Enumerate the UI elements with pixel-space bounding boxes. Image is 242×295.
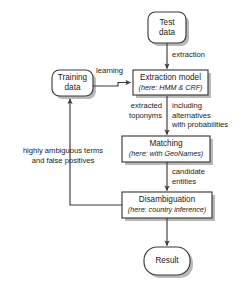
node-training-data-shape (52, 70, 93, 96)
diagram-canvas (0, 0, 242, 295)
node-matching-shape (122, 136, 210, 162)
node-result-shape (144, 247, 190, 275)
node-test-data-shape (148, 12, 186, 43)
edge-disambiguation-to-training (70, 99, 122, 205)
node-disambiguation-shape (122, 192, 212, 218)
flowchart-diagram: Test data Training data Extraction model… (0, 0, 242, 295)
edge-training-to-extraction (93, 83, 131, 87)
node-shapes (52, 12, 212, 275)
node-extraction-model-shape (133, 70, 208, 95)
